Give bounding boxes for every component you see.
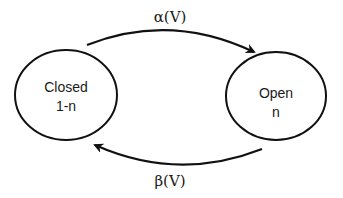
transition-open-to-closed: β(V) [95,145,262,190]
alpha-rate-label: α(V) [154,8,187,26]
transition-closed-to-open: α(V) [87,8,254,52]
closed-state-name: Closed [44,79,88,95]
beta-rate-label: β(V) [154,172,185,190]
open-state-fraction: n [272,104,280,120]
state-closed: Closed 1-n [15,50,117,140]
diagram-canvas: Closed 1-n Open n α(V) β(V) [0,0,343,198]
open-state-name: Open [259,85,293,101]
arrow-backward-icon [95,145,262,165]
closed-state-fraction: 1-n [56,98,76,114]
state-open: Open n [226,52,326,140]
closed-state-circle [15,50,117,140]
arrow-forward-icon [87,30,254,52]
two-state-diagram: Closed 1-n Open n α(V) β(V) [0,0,343,198]
